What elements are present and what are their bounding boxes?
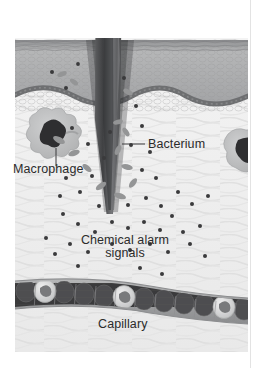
label-chemical-line2: signals xyxy=(105,246,145,260)
skin-wound-illustration xyxy=(0,0,258,368)
label-macrophage: Macrophage xyxy=(13,163,84,176)
label-chemical-line1: Chemical alarm xyxy=(81,233,169,247)
label-capillary: Capillary xyxy=(98,318,148,331)
splinter-tip-facet xyxy=(96,5,122,20)
label-chemical-alarm-signals: Chemical alarm signals xyxy=(63,234,187,260)
label-bacterium: Bacterium xyxy=(148,138,205,151)
figure-container: Macrophage Bacterium Chemical alarm sign… xyxy=(0,0,258,368)
